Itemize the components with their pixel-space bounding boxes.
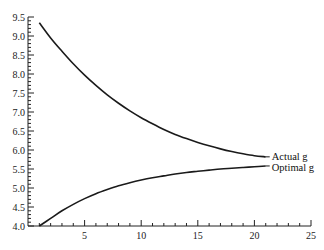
- y-tick-label: 9.0: [13, 31, 26, 42]
- optimal-g-curve: [39, 166, 265, 226]
- actual-g-curve: [39, 23, 265, 157]
- y-tick-label: 6.0: [13, 145, 26, 156]
- x-tick-label: 10: [136, 230, 146, 241]
- y-tick-label: 7.0: [13, 107, 26, 118]
- line-chart: 4.04.55.05.56.06.57.07.58.08.59.09.5 510…: [0, 0, 324, 250]
- y-tick-label: 5.0: [13, 183, 26, 194]
- y-axis-ticks: 4.04.55.05.56.06.57.07.58.08.59.09.5: [13, 12, 35, 232]
- y-tick-label: 4.5: [13, 202, 26, 213]
- y-tick-label: 8.0: [13, 69, 26, 80]
- x-tick-label: 20: [249, 230, 259, 241]
- y-tick-label: 9.5: [13, 12, 26, 23]
- optimal-g-label: Optimal g: [272, 162, 315, 173]
- actual-g-label: Actual g: [272, 151, 309, 162]
- y-tick-label: 8.5: [13, 50, 26, 61]
- y-tick-label: 5.5: [13, 164, 26, 175]
- x-tick-label: 5: [82, 230, 87, 241]
- y-tick-label: 7.5: [13, 88, 26, 99]
- axes: [28, 17, 311, 226]
- x-axis-ticks: 510152025: [39, 220, 316, 241]
- y-tick-label: 6.5: [13, 126, 26, 137]
- x-tick-label: 15: [193, 230, 203, 241]
- x-tick-label: 25: [306, 230, 316, 241]
- y-tick-label: 4.0: [13, 221, 26, 232]
